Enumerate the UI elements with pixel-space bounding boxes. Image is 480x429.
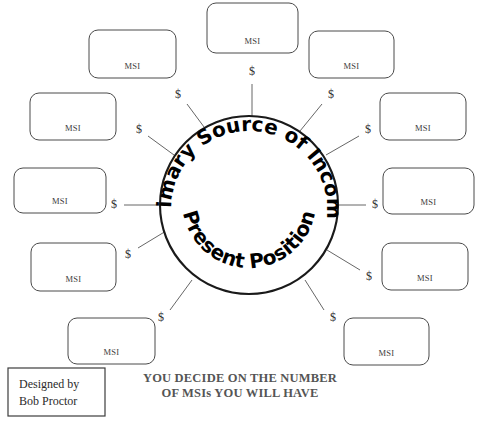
msi-bottom-right-label: MSI	[378, 348, 394, 358]
msi-wheel-diagram: $$$$$$$$$$$ Primary Source of Income Pre…	[0, 0, 480, 429]
msi-top-right[interactable]: MSI	[309, 31, 394, 78]
dollar-icon-msi-top-right: $	[328, 87, 334, 101]
msi-bottom-right[interactable]: MSI	[344, 318, 429, 365]
msi-top-left[interactable]: MSI	[89, 30, 176, 78]
msi-mid-right-label: MSI	[420, 197, 436, 207]
msi-upper-left-label: MSI	[65, 123, 81, 133]
dollar-icon-msi-lower-left: $	[125, 247, 131, 261]
dollar-icon-msi-mid-left: $	[111, 197, 117, 211]
caption-line-2: OF MSIs YOU WILL HAVE	[161, 386, 318, 400]
msi-lower-right[interactable]: MSI	[382, 243, 468, 290]
spoke-line-msi-bottom-right	[305, 280, 324, 310]
spoke-line-msi-top-right	[300, 104, 322, 131]
msi-bottom-left[interactable]: MSI	[68, 318, 155, 364]
msi-top-left-label: MSI	[124, 61, 140, 71]
spoke-line-msi-bottom-left	[170, 280, 192, 310]
msi-upper-right[interactable]: MSI	[380, 93, 466, 140]
msi-mid-left[interactable]: MSI	[14, 168, 106, 213]
msi-mid-left-label: MSI	[52, 196, 68, 206]
dollar-icon-msi-bottom-right: $	[330, 310, 336, 324]
msi-bottom-left-rect[interactable]	[68, 318, 155, 364]
msi-lower-left-label: MSI	[65, 274, 81, 284]
msi-lower-left[interactable]: MSI	[31, 243, 116, 291]
designer-credit-line-2: Bob Proctor	[19, 394, 77, 408]
designer-credit-line-1: Designed by	[19, 377, 79, 391]
msi-mid-right[interactable]: MSI	[383, 168, 474, 214]
msi-upper-right-label: MSI	[415, 123, 431, 133]
designer-credit: Designed by Bob Proctor	[8, 368, 105, 416]
msi-top-right-label: MSI	[343, 61, 359, 71]
spoke-line-msi-lower-right	[327, 250, 360, 270]
dollar-icon-msi-top-left: $	[175, 87, 181, 101]
dollar-icon-msi-upper-right: $	[365, 122, 371, 136]
msi-mid-right-rect[interactable]	[383, 168, 474, 214]
msi-top-label: MSI	[244, 36, 260, 46]
dollar-icon-msi-upper-left: $	[136, 122, 142, 136]
dollar-icon-msi-bottom-left: $	[158, 310, 164, 324]
spoke-line-msi-upper-left	[148, 136, 174, 155]
dollar-icon-msi-top: $	[249, 64, 255, 78]
dollar-icon-msi-mid-right: $	[372, 197, 378, 211]
designer-credit-box	[8, 368, 105, 416]
spoke-line-msi-upper-right	[326, 136, 359, 155]
dollar-icon-msi-lower-right: $	[366, 269, 372, 283]
msi-top[interactable]: MSI	[207, 3, 298, 53]
msi-upper-left[interactable]: MSI	[30, 93, 116, 140]
msi-bottom-left-label: MSI	[103, 347, 119, 357]
msi-lower-right-label: MSI	[417, 273, 433, 283]
caption-line-1: YOU DECIDE ON THE NUMBER	[143, 371, 338, 385]
msi-mid-left-rect[interactable]	[14, 168, 106, 213]
